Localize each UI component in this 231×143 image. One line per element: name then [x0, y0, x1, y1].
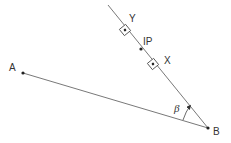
- label-ip: IP: [143, 36, 153, 47]
- point-y-marker: [119, 24, 130, 35]
- label-b: B: [213, 126, 220, 137]
- label-x: X: [164, 55, 171, 66]
- point-b: [206, 126, 209, 129]
- segment-ab: [23, 73, 208, 128]
- point-ip: [139, 47, 142, 50]
- label-beta: β: [173, 102, 180, 114]
- label-a: A: [9, 62, 16, 73]
- diagram-canvas: A B Y IP X β: [0, 0, 231, 143]
- label-y: Y: [129, 13, 136, 24]
- point-a: [21, 71, 24, 74]
- segment-b-line: [108, 5, 208, 128]
- point-x-marker: [147, 58, 158, 69]
- angle-beta-arc: [183, 106, 190, 120]
